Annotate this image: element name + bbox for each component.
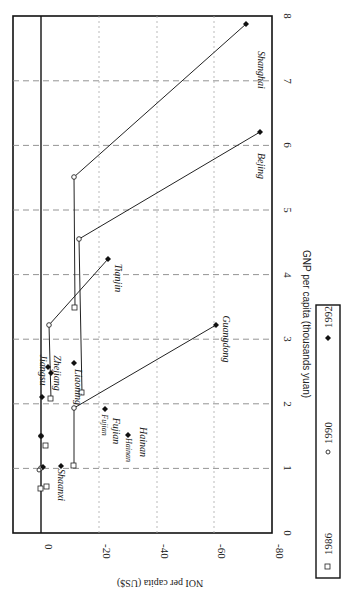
- svg-text:0: 0: [43, 544, 55, 550]
- shanghai-line: [74, 24, 246, 308]
- svg-text:2: 2: [282, 401, 294, 407]
- label-fujian: Fujian: [111, 417, 122, 445]
- markers-1992: [38, 21, 263, 470]
- legend-square-icon: [325, 564, 330, 569]
- legend-1990: 1990: [322, 422, 334, 445]
- label-hainan-small: Hainan: [124, 437, 133, 462]
- label-beijing: Bejing: [256, 153, 267, 179]
- svg-text:-80: -80: [274, 544, 286, 559]
- svg-text:7: 7: [282, 78, 294, 84]
- province-labels: Shanghai Bejing Tianjin Guangdong Jiangs…: [38, 51, 267, 501]
- svg-text:3: 3: [282, 336, 294, 342]
- svg-text:-40: -40: [159, 544, 171, 559]
- svg-text:5: 5: [282, 207, 294, 213]
- svg-text:8: 8: [282, 13, 294, 19]
- label-zhejiang: Zhejiang: [52, 355, 63, 391]
- noi-ticks: 0 -20 -40 -60 -80: [43, 544, 286, 559]
- svg-text:-60: -60: [216, 544, 228, 559]
- gnp-ticks: 0 1 2 3 4 5 6 7 8: [282, 13, 294, 536]
- label-jiangsu: Jiangsu: [38, 354, 49, 385]
- noi-axis-title: NOI per capita (US$): [117, 577, 203, 589]
- legend-1986: 1986: [322, 533, 334, 556]
- label-shaanxi: Shaanxi: [56, 469, 67, 501]
- gnp-gridlines: [13, 81, 272, 469]
- legend-circle-icon: [326, 450, 330, 454]
- label-fujian-small: Fujian: [100, 413, 109, 435]
- legend: 1986 1990 1992: [316, 305, 340, 578]
- svg-text:1: 1: [282, 465, 294, 471]
- chart: Shanghai Bejing Tianjin Guangdong Jiangs…: [0, 0, 349, 592]
- svg-text:6: 6: [282, 142, 294, 148]
- svg-text:4: 4: [282, 272, 294, 278]
- svg-text:0: 0: [282, 530, 294, 536]
- label-guangdong: Guangdong: [221, 315, 232, 362]
- svg-text:-20: -20: [101, 544, 113, 559]
- label-hainan: Hainan: [138, 426, 149, 457]
- gnp-axis-title: GNP per capita (thousands yuan): [301, 250, 312, 398]
- label-shanghai: Shanghai: [256, 51, 267, 89]
- legend-1992: 1992: [322, 306, 334, 328]
- label-tianjin: Tianjin: [113, 264, 124, 292]
- label-liaoning: Liaoning: [73, 368, 84, 405]
